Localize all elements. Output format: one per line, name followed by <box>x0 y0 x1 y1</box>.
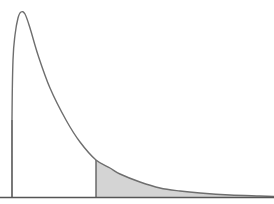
density-diagram <box>0 0 274 204</box>
density-curve <box>12 12 274 197</box>
density-plot <box>0 0 274 204</box>
